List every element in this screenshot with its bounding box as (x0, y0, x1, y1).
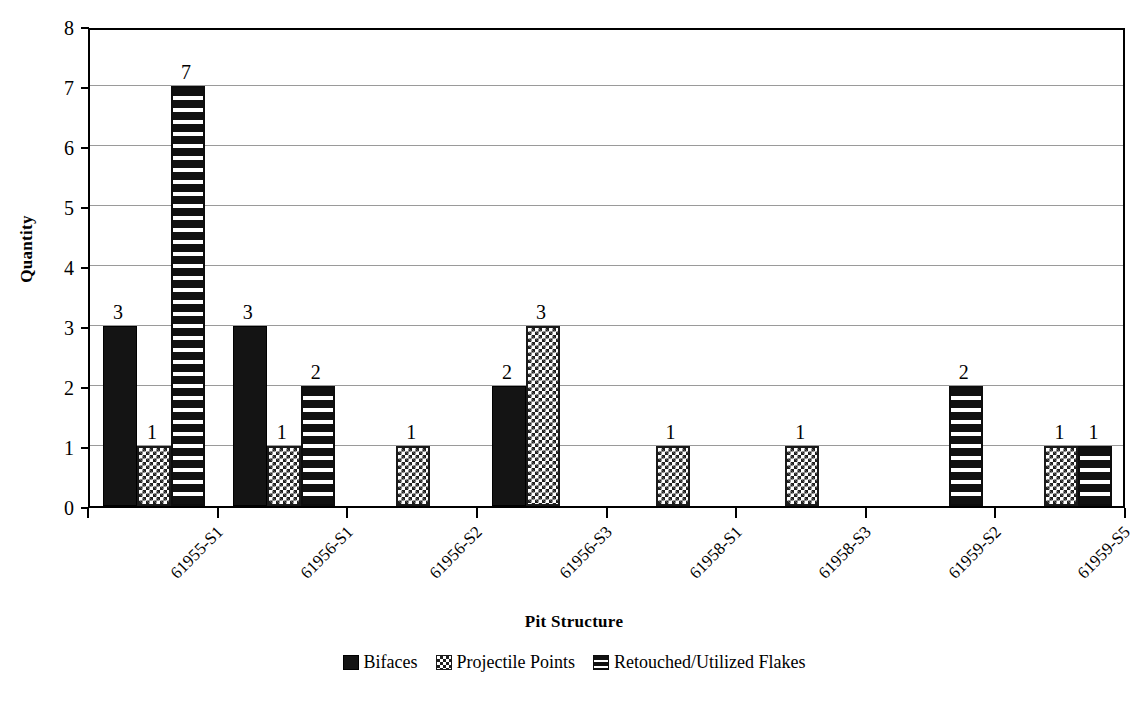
legend-item: Bifaces (343, 652, 418, 672)
gridline (90, 205, 1123, 206)
bar (233, 326, 267, 506)
y-axis-tick-mark (81, 267, 89, 269)
y-axis-tick-label: 5 (18, 198, 74, 218)
bar-value-label: 1 (127, 422, 177, 442)
x-axis-title: Pit Structure (0, 612, 1148, 632)
x-axis-tick-label: 61955-S1 (167, 523, 226, 582)
y-axis-tick-label: 1 (18, 438, 74, 458)
x-axis-tick-label: 61956-S1 (297, 523, 356, 582)
y-axis-tick-mark (81, 27, 89, 29)
x-axis-tick-mark (217, 508, 219, 518)
legend-swatch-icon (593, 655, 609, 670)
x-axis-tick-mark (735, 508, 737, 518)
bar-value-label: 7 (161, 62, 211, 82)
legend-item-label: Projectile Points (457, 652, 576, 672)
legend-swatch-icon (343, 655, 359, 670)
legend-swatch-icon (436, 655, 452, 670)
x-axis-tick-mark (994, 508, 996, 518)
bar (171, 86, 205, 506)
y-axis-tick-label: 6 (18, 138, 74, 158)
x-axis-tick-label: 61959-S5 (1075, 523, 1134, 582)
bar (1078, 446, 1112, 506)
y-axis-tick-mark (81, 327, 89, 329)
bar (656, 446, 690, 506)
legend-item-label: Retouched/Utilized Flakes (614, 652, 805, 672)
legend-item: Retouched/Utilized Flakes (593, 652, 805, 672)
y-axis-tick-label: 7 (18, 78, 74, 98)
bar-value-label: 2 (482, 362, 532, 382)
x-axis-tick-label: 61956-S3 (556, 523, 615, 582)
y-axis-tick-label: 3 (18, 318, 74, 338)
bar (301, 386, 335, 506)
bar-value-label: 1 (257, 422, 307, 442)
bar (949, 386, 983, 506)
bar-value-label: 1 (646, 422, 696, 442)
bar (103, 326, 137, 506)
plot-area (88, 28, 1125, 508)
bar-value-label: 1 (1068, 422, 1118, 442)
bar-value-label: 3 (516, 302, 566, 322)
legend-item: Projectile Points (436, 652, 576, 672)
y-axis-tick-label: 8 (18, 18, 74, 38)
x-axis-tick-mark (865, 508, 867, 518)
bar (1044, 446, 1078, 506)
bar-value-label: 3 (93, 302, 143, 322)
y-axis-tick-mark (81, 447, 89, 449)
legend-item-label: Bifaces (364, 652, 418, 672)
y-axis-tick-label: 4 (18, 258, 74, 278)
x-axis-tick-mark (346, 508, 348, 518)
bar (492, 386, 526, 506)
bar (526, 326, 560, 506)
bar-value-label: 1 (386, 422, 436, 442)
gridline (90, 85, 1123, 86)
y-axis-tick-label: 2 (18, 378, 74, 398)
bar-value-label: 2 (291, 362, 341, 382)
bar (785, 446, 819, 506)
bar (137, 446, 171, 506)
y-axis-tick-mark (81, 147, 89, 149)
y-axis-tick-mark (81, 207, 89, 209)
bar-chart: Quantity 012345678 61955-S161956-S161956… (0, 0, 1148, 711)
x-axis-tick-mark (87, 508, 89, 518)
y-axis-tick-mark (81, 87, 89, 89)
bar-value-label: 1 (775, 422, 825, 442)
bar (396, 446, 430, 506)
y-axis-tick-label: 0 (18, 498, 74, 518)
x-axis-tick-mark (1124, 508, 1126, 518)
x-axis-tick-label: 61958-S3 (815, 523, 874, 582)
x-axis-tick-label: 61956-S2 (427, 523, 486, 582)
x-axis-tick-mark (476, 508, 478, 518)
bar-value-label: 3 (223, 302, 273, 322)
gridline (90, 145, 1123, 146)
x-axis-tick-label: 61958-S1 (686, 523, 745, 582)
x-axis-tick-mark (606, 508, 608, 518)
x-axis-tick-label: 61959-S2 (945, 523, 1004, 582)
y-axis-tick-mark (81, 387, 89, 389)
gridline (90, 265, 1123, 266)
bar-value-label: 2 (939, 362, 989, 382)
bar (267, 446, 301, 506)
chart-legend: BifacesProjectile PointsRetouched/Utiliz… (0, 652, 1148, 672)
